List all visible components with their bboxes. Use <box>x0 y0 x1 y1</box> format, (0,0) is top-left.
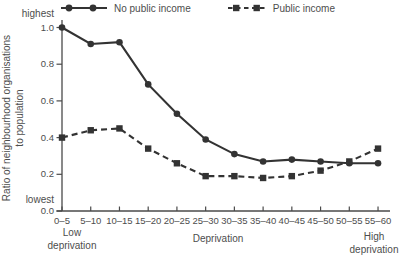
y-tick-label: 0.8 <box>26 58 54 69</box>
data-point-circle-no-public-income <box>317 158 324 165</box>
series-line-public-income <box>62 128 378 178</box>
data-point-circle-no-public-income <box>260 158 267 165</box>
data-point-square-public-income <box>145 145 151 151</box>
x-axis-low-line1: Low <box>34 227 110 240</box>
y-tick-label: 0.2 <box>26 168 54 179</box>
data-point-square-public-income <box>346 158 352 164</box>
data-point-square-public-income <box>174 160 180 166</box>
data-point-square-public-income <box>202 173 208 179</box>
data-point-square-public-income <box>59 134 65 140</box>
data-point-square-public-income <box>231 173 237 179</box>
data-point-circle-no-public-income <box>59 24 66 31</box>
y-tick-label: 1.0 <box>26 22 54 33</box>
x-tick-label: 55–60 <box>360 215 396 226</box>
data-point-square-public-income <box>260 175 266 181</box>
data-point-square-public-income <box>289 173 295 179</box>
data-point-square-public-income <box>116 125 122 131</box>
data-point-square-public-income <box>88 127 94 133</box>
series-line-no-public-income <box>62 28 378 164</box>
data-point-circle-no-public-income <box>202 136 209 143</box>
x-axis-high-line2: deprivation <box>336 244 412 257</box>
y-tick-label: 0.6 <box>26 95 54 106</box>
data-point-circle-no-public-income <box>231 151 238 158</box>
y-tick-label: 0.4 <box>26 132 54 143</box>
x-axis-title: Deprivation <box>168 233 268 244</box>
x-axis-high-deprivation-label: High deprivation <box>336 231 412 256</box>
chart-figure: No public income Public income Ratio of … <box>0 0 414 263</box>
data-point-square-public-income <box>375 145 381 151</box>
data-point-circle-no-public-income <box>116 39 123 46</box>
data-point-circle-no-public-income <box>87 41 94 48</box>
x-axis-low-line2: deprivation <box>34 240 110 253</box>
data-point-circle-no-public-income <box>289 156 296 163</box>
data-point-square-public-income <box>317 167 323 173</box>
data-point-circle-no-public-income <box>174 110 181 117</box>
x-axis-high-line1: High <box>336 231 412 244</box>
x-axis-low-deprivation-label: Low deprivation <box>34 227 110 252</box>
data-point-circle-no-public-income <box>145 81 152 88</box>
data-point-circle-no-public-income <box>375 160 382 167</box>
